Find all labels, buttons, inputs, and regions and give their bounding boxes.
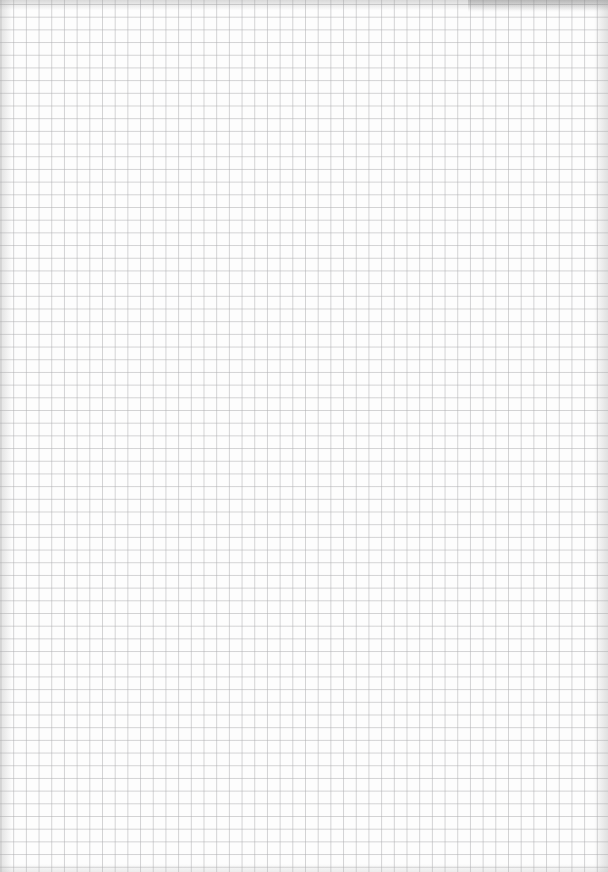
bottom-edge-shadow	[0, 864, 608, 872]
left-edge-shadow	[0, 0, 12, 872]
sheet-description: Blank square-grid graph paper	[0, 0, 1, 1]
sheet-content-text	[0, 0, 1, 1]
top-right-edge-shadow	[468, 0, 608, 12]
right-edge-shadow	[594, 0, 608, 872]
top-edge-shadow	[0, 0, 608, 10]
graph-paper-sheet: Blank square-grid graph paper	[0, 0, 608, 872]
